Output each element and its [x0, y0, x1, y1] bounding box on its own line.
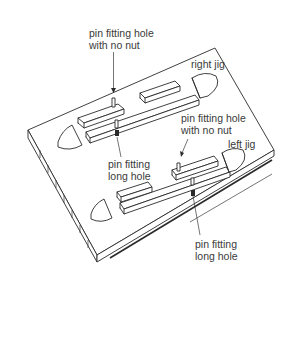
label-bottom-long-hole-line1: pin fitting — [195, 238, 237, 250]
pin-long-hole-top — [115, 120, 119, 136]
label-mid-pin-hole-line1: pin fitting hole — [181, 112, 246, 124]
label-top-pin-hole-line1: pin fitting hole — [89, 27, 154, 39]
jig-plate-diagram: pin fitting hole with no nut right jig p… — [0, 0, 304, 342]
label-top-long-hole-line1: pin fitting — [108, 158, 150, 170]
label-left-jig: left jig — [228, 138, 256, 150]
label-top-long-hole-line2: long hole — [108, 170, 151, 182]
label-right-jig: right jig — [191, 58, 225, 70]
label-top-pin-hole-line2: with no nut — [88, 39, 140, 51]
label-top-pin-hole: pin fitting hole with no nut — [88, 27, 154, 51]
label-bottom-long-hole: pin fitting long hole — [195, 238, 238, 262]
label-mid-pin-hole-line2: with no nut — [180, 124, 232, 136]
label-bottom-long-hole-line2: long hole — [195, 250, 238, 262]
label-top-long-hole: pin fitting long hole — [108, 158, 151, 182]
